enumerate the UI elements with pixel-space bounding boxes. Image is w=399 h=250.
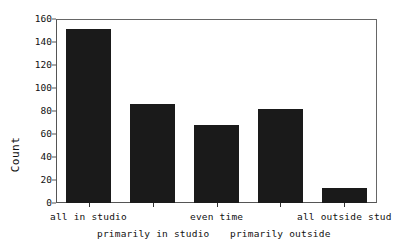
bar-chart: Count 020406080100120140160 all in studi… <box>0 0 399 250</box>
x-tick-label: all in studio <box>50 212 127 222</box>
y-tick-label: 60 <box>0 129 52 139</box>
y-tick-label: 40 <box>0 152 52 162</box>
x-tick-label: primarily outside <box>230 229 331 239</box>
x-tick-label: even time <box>190 212 243 222</box>
y-tick-mark <box>52 88 56 89</box>
y-tick-label: 80 <box>0 106 52 116</box>
bar <box>194 125 239 203</box>
bar <box>130 104 175 203</box>
x-tick-mark <box>344 203 345 207</box>
y-tick-label: 100 <box>0 83 52 93</box>
x-tick-mark <box>217 203 218 207</box>
y-tick-mark <box>52 42 56 43</box>
bar <box>322 188 367 203</box>
y-tick-mark <box>52 180 56 181</box>
y-tick-mark <box>52 134 56 135</box>
x-tick-label: primarily in studio <box>97 229 209 239</box>
bar <box>66 29 111 203</box>
y-tick-label: 160 <box>0 14 52 24</box>
y-tick-mark <box>52 19 56 20</box>
bar-series <box>57 20 376 203</box>
y-tick-label: 20 <box>0 175 52 185</box>
y-tick-label: 140 <box>0 37 52 47</box>
x-tick-mark <box>280 203 281 207</box>
y-tick-mark <box>52 203 56 204</box>
y-tick-mark <box>52 111 56 112</box>
x-tick-mark <box>153 203 154 207</box>
y-tick-label: 120 <box>0 60 52 70</box>
x-tick-label: all outside stud <box>297 212 392 222</box>
y-tick-label: 0 <box>0 198 52 208</box>
y-tick-mark <box>52 65 56 66</box>
bar <box>258 109 303 203</box>
x-tick-mark <box>89 203 90 207</box>
y-tick-mark <box>52 157 56 158</box>
